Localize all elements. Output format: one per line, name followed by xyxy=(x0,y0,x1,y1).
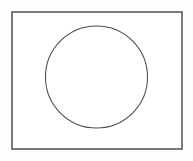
figure-canvas xyxy=(0,0,193,161)
geometry-diagram xyxy=(0,0,193,161)
